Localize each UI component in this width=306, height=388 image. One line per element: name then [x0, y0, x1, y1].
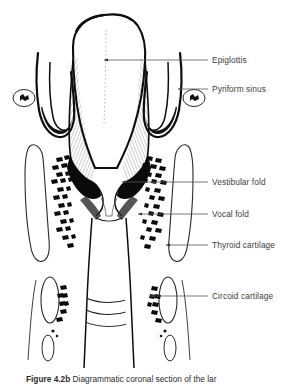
trachea-structure	[84, 216, 136, 372]
label-pyriform-sinus: Pyriform sinus	[212, 84, 266, 94]
cricoid-cartilage-left	[28, 277, 69, 361]
figure-number: Figure 4.2b	[26, 374, 70, 384]
pyriform-sinus-left	[13, 53, 74, 137]
label-circoid-cartilage: Circoid cartilage	[212, 291, 273, 301]
label-thyroid-cartilage: Thyroid cartilage	[212, 240, 275, 250]
label-vocal-fold: Vocal fold	[212, 209, 249, 219]
thyroid-cartilage-right	[169, 145, 193, 262]
label-epiglottis: Epiglottis	[212, 55, 247, 65]
figure-caption-text: Diagrammatic coronal section of the lar	[73, 374, 217, 384]
larynx-coronal-diagram	[0, 0, 306, 388]
label-vestibular-fold: Vestibular fold	[212, 177, 266, 187]
thyroid-cartilage-left	[25, 145, 49, 262]
figure-caption: Figure 4.2b Diagrammatic coronal section…	[26, 374, 298, 385]
figure-container: Epiglottis Pyriform sinus Vestibular fol…	[0, 0, 306, 388]
cricoid-cartilage-right	[147, 277, 190, 361]
pyriform-sinus-right	[144, 53, 205, 137]
